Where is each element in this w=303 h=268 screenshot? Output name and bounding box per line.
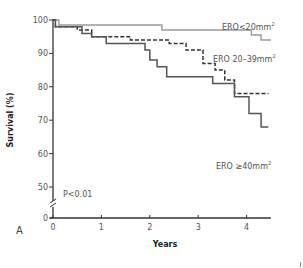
axis-break-mark (50, 203, 56, 207)
x-axis-title: Years (152, 240, 178, 249)
x-tick-label: 4 (244, 223, 249, 232)
y-tick-label: 60 (38, 150, 48, 159)
y-tick-label: 50 (38, 183, 48, 192)
p-value-annotation: P<0.01 (63, 190, 92, 199)
x-tick-label: 0 (50, 223, 55, 232)
series-line-2 (53, 20, 268, 127)
y-tick-label: 90 (38, 49, 48, 58)
y-tick-label: 70 (38, 116, 48, 125)
survival-curves (53, 20, 271, 127)
x-tick-label: 3 (196, 223, 201, 232)
x-tick-label: 1 (99, 223, 104, 232)
series-label-ero-lt20: ERO<20mm2 (222, 21, 275, 32)
kaplan-meier-chart: 0506070809010001234 Survival (%) Years P… (0, 0, 303, 268)
series-label-ero-ge40: ERO ≥40mm2 (216, 160, 271, 171)
axes: 0506070809010001234 (33, 16, 271, 232)
series-label-ero-20-39: ERO 20–39mm2 (213, 53, 276, 64)
y-tick-label: 80 (38, 83, 48, 92)
panel-label: A (16, 225, 23, 236)
x-tick-label: 2 (147, 223, 152, 232)
y-axis-title: Survival (%) (6, 93, 15, 148)
corner-mark (300, 262, 301, 267)
y-tick-label: 0 (43, 214, 48, 223)
y-tick-label: 100 (33, 16, 48, 25)
